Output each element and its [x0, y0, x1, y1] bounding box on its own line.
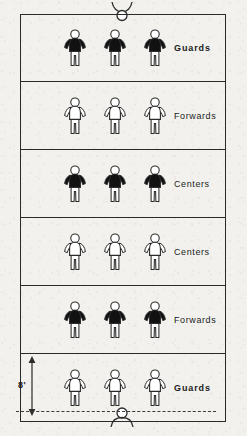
lane-row-centers-2: Centers [20, 150, 226, 218]
player-figure-dark-r4-c2 [142, 301, 168, 339]
lane-row-guards-0: Guards [20, 14, 226, 82]
lane-row-centers-3: Centers [20, 218, 226, 286]
row-label-3: Centers [174, 247, 210, 257]
player-figure-light-r1-c1 [102, 97, 128, 135]
player-figure-light-r3-c1 [102, 233, 128, 271]
player-figure-dark-r0-c2 [142, 29, 168, 67]
lane-row-forwards-4: Forwards [20, 286, 226, 354]
row-label-5: Guards [174, 383, 211, 393]
player-figure-dark-r0-c1 [102, 29, 128, 67]
row-label-2: Centers [174, 179, 210, 189]
player-figure-dark-r4-c0 [62, 301, 88, 339]
player-figure-dark-r2-c1 [102, 165, 128, 203]
rebound-positions-diagram: GuardsForwardsCentersCentersForwardsGuar… [0, 0, 247, 436]
player-figure-light-r5-c2 [142, 369, 168, 407]
player-figure-dark-r0-c0 [62, 29, 88, 67]
row-label-4: Forwards [174, 315, 216, 325]
player-figure-light-r5-c1 [102, 369, 128, 407]
row-label-1: Forwards [174, 111, 216, 121]
player-figure-light-r1-c0 [62, 97, 88, 135]
lane-depth-dimension-label: 8' [18, 380, 26, 390]
baseline-dashed-line [16, 411, 216, 412]
player-figure-light-r3-c2 [142, 233, 168, 271]
player-figure-light-r3-c0 [62, 233, 88, 271]
lane-row-forwards-1: Forwards [20, 82, 226, 150]
player-figure-dark-r2-c2 [142, 165, 168, 203]
lane-depth-dimension-arrow [22, 356, 52, 416]
player-figure-light-r5-c0 [62, 369, 88, 407]
player-figure-light-r1-c2 [142, 97, 168, 135]
row-label-0: Guards [174, 43, 211, 53]
player-figure-dark-r4-c1 [102, 301, 128, 339]
player-figure-dark-r2-c0 [62, 165, 88, 203]
